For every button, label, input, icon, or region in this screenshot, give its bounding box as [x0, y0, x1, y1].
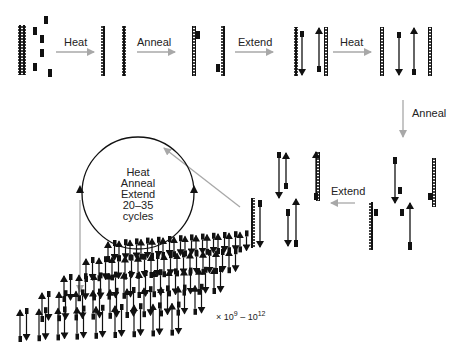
- step-label-anneal: Anneal: [137, 36, 171, 48]
- step-label-extend-2: Extend: [331, 185, 365, 197]
- step-label-anneal-2: Anneal: [412, 107, 446, 119]
- annealed-products: [369, 157, 436, 250]
- cycle-label-cycles: cycles: [123, 210, 154, 222]
- annealed-strands: [192, 26, 225, 76]
- amplification-label: × 109 – 1012: [216, 310, 266, 322]
- amplified-products: [19, 230, 249, 342]
- extended-products: [251, 152, 320, 248]
- denatured-strands: [101, 26, 126, 76]
- step-extend-2: Extend: [331, 185, 365, 203]
- cycle-loop: Heat Anneal Extend 20–35 cycles: [76, 137, 198, 249]
- step-label-heat: Heat: [64, 36, 87, 48]
- step-label-extend: Extend: [238, 36, 272, 48]
- free-primers: [33, 16, 52, 77]
- template-dsdna: [18, 25, 26, 75]
- to-cycle-arrow: [164, 148, 240, 207]
- step-heat-2: Heat: [333, 36, 371, 52]
- step-anneal-2: Anneal: [403, 100, 446, 137]
- pcr-diagram: Heat Anneal Extend Heat: [0, 0, 461, 361]
- step-anneal-1: Anneal: [137, 36, 175, 52]
- denatured-products: [380, 27, 432, 76]
- step-label-heat-2: Heat: [340, 36, 363, 48]
- cycle-arrow-up-icon: [190, 185, 198, 193]
- extended-strands: [294, 27, 328, 76]
- step-extend-1: Extend: [235, 36, 273, 52]
- step-heat-1: Heat: [56, 36, 94, 52]
